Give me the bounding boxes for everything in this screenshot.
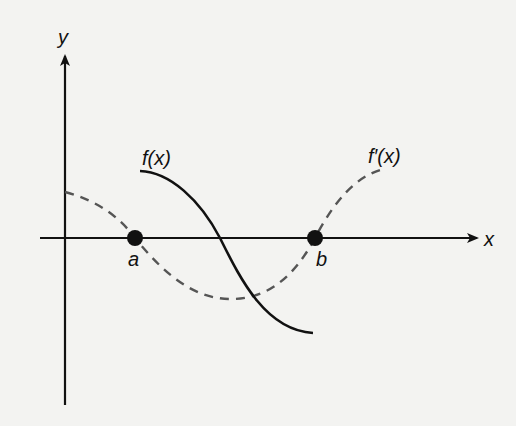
x-axis-label: x — [483, 228, 495, 250]
f-curve — [140, 171, 313, 333]
point-b — [307, 230, 323, 246]
f-prime-curve — [65, 170, 380, 299]
f-prime-curve-label: f′(x) — [368, 145, 401, 167]
y-axis-label: y — [56, 26, 69, 48]
graph-canvas: y x a b f(x) f′(x) — [0, 0, 516, 426]
point-b-label: b — [316, 248, 327, 270]
point-a-label: a — [128, 248, 139, 270]
point-a — [127, 230, 143, 246]
graph-figure: y x a b f(x) f′(x) — [0, 0, 516, 426]
f-curve-label: f(x) — [142, 147, 171, 169]
